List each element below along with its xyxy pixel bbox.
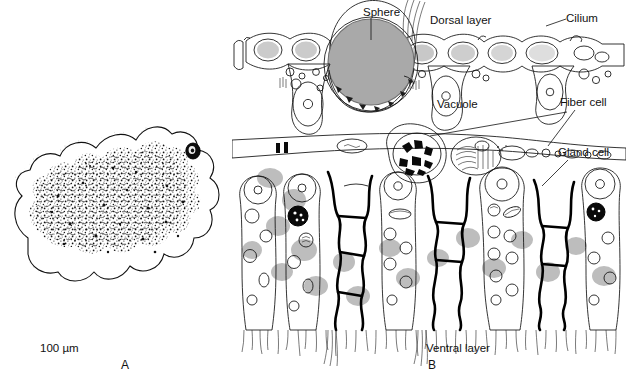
panel-a-letter: A xyxy=(121,358,129,372)
dark-nucleus xyxy=(288,206,308,226)
label-ventral-layer: Ventral layer xyxy=(426,342,490,355)
label-cilium: Cilium xyxy=(566,12,598,25)
label-gland-cell: Gland cell xyxy=(558,146,609,159)
scale-bar-label: 100 µm xyxy=(40,342,79,354)
figure-root: 100 µm A xyxy=(0,0,626,377)
dorsal-layer-group xyxy=(234,0,624,72)
dark-nucleus-right xyxy=(587,203,605,221)
label-vacuole: Vacuole xyxy=(437,98,478,111)
label-dorsal-layer: Dorsal layer xyxy=(430,14,491,27)
panel-a: 100 µm A xyxy=(0,0,232,377)
vacuole-inclusions xyxy=(399,140,433,176)
vacuole-structure xyxy=(387,124,447,183)
label-fiber-cell: Fiber cell xyxy=(560,96,607,109)
gland-cell-outline xyxy=(328,172,341,330)
panel-b-letter: B xyxy=(428,358,436,372)
sphere-in-panel-a xyxy=(186,143,200,159)
ventral-layer-group xyxy=(240,167,621,366)
label-sphere: Sphere xyxy=(363,6,400,19)
panel-b: Sphere Dorsal layer Cilium Vacuole Fiber… xyxy=(232,0,626,377)
vacuole xyxy=(393,133,441,175)
panel-b-drawing xyxy=(232,0,626,377)
panel-a-drawing xyxy=(0,0,232,377)
